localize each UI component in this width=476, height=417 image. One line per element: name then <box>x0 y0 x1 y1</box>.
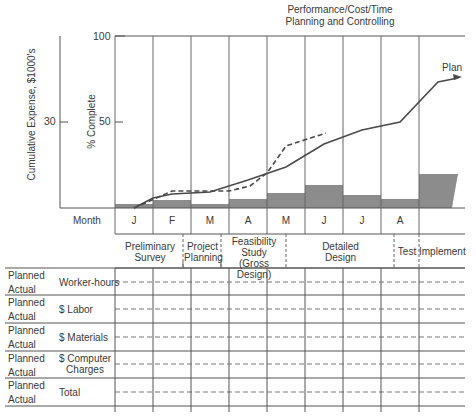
row-labor-label: $ Labor <box>59 304 93 315</box>
row-labor-actual: Actual <box>8 311 36 322</box>
phase-feasibility-study: Feasibility Study (Gross Design) <box>222 236 286 280</box>
row-worker-hours-label: Worker-hours <box>59 277 119 288</box>
phase-detailed-design: Detailed Design <box>287 241 394 263</box>
percent-complete-axis-label: % Complete <box>86 87 97 157</box>
phase-project-planning: Project Planning <box>184 241 221 263</box>
month-row-label: Month <box>73 215 101 226</box>
row-total-actual: Actual <box>8 394 36 405</box>
month-apr: A <box>229 215 267 226</box>
month-feb: F <box>153 215 191 226</box>
month-jul: J <box>343 215 381 226</box>
row-materials-actual: Actual <box>8 339 36 350</box>
row-total-planned: Planned <box>8 380 45 391</box>
phase-test: Test <box>395 246 419 257</box>
row-worker-hours-planned: Planned <box>8 270 45 281</box>
month-jan: J <box>115 215 153 226</box>
row-total-label: Total <box>59 387 80 398</box>
expense-bars <box>115 174 458 208</box>
month-may: M <box>267 215 305 226</box>
row-labor-planned: Planned <box>8 297 45 308</box>
percent-tick-50: 50 <box>99 115 111 127</box>
cumulative-expense-axis-label: Cumulative Expense, $1000's <box>26 51 37 181</box>
percent-tick-100: 100 <box>93 30 111 42</box>
plan-label: Plan <box>442 62 462 73</box>
row-worker-hours-actual: Actual <box>8 284 36 295</box>
row-computer-planned: Planned <box>8 353 45 364</box>
month-mar: M <box>191 215 229 226</box>
row-computer-label: $ Computer Charges <box>57 353 113 375</box>
row-computer-actual: Actual <box>8 367 36 378</box>
month-aug: A <box>381 215 419 226</box>
row-materials-planned: Planned <box>8 325 45 336</box>
row-materials-label: $ Materials <box>59 332 108 343</box>
phase-implement: Implement <box>419 246 465 257</box>
expense-tick-30: 30 <box>44 115 56 127</box>
phase-preliminary-survey: Preliminary Survey <box>117 241 183 263</box>
month-jun: J <box>305 215 343 226</box>
